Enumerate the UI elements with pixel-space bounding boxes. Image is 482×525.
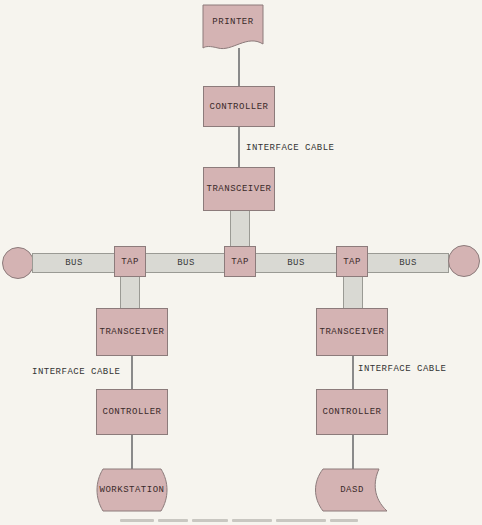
workstation-label: WORKSTATION xyxy=(95,468,169,512)
right-transceiver-box: TRANSCEIVER xyxy=(316,308,388,356)
dasd-label: DASD xyxy=(315,468,389,512)
left-interface-cable xyxy=(131,356,133,390)
top-cable-label: INTERFACE CABLE xyxy=(246,143,335,153)
printer-label: PRINTER xyxy=(202,4,264,40)
left-cable-label: INTERFACE CABLE xyxy=(32,367,121,377)
right-cable-label: INTERFACE CABLE xyxy=(358,364,447,374)
bus-segment-1: BUS xyxy=(32,253,116,273)
right-tap-stub xyxy=(343,275,363,308)
bus-segment-3: BUS xyxy=(255,253,337,273)
tap-center: TAP xyxy=(224,246,256,277)
bus-segment-2: BUS xyxy=(145,253,227,273)
bus-segment-4: BUS xyxy=(367,253,449,273)
top-controller-box: CONTROLLER xyxy=(203,86,275,127)
figure-caption xyxy=(120,512,370,518)
workstation-connector xyxy=(131,435,133,469)
bus-terminator-left xyxy=(2,247,34,279)
printer-connector xyxy=(238,48,240,88)
bus-terminator-right xyxy=(448,245,480,277)
left-controller-box: CONTROLLER xyxy=(96,389,168,435)
tap-left: TAP xyxy=(114,246,146,277)
top-interface-cable xyxy=(238,127,240,169)
right-interface-cable xyxy=(352,356,354,390)
left-tap-stub xyxy=(120,275,140,308)
right-controller-box: CONTROLLER xyxy=(316,389,388,435)
top-tap-stub xyxy=(230,211,250,246)
tap-right: TAP xyxy=(336,246,368,277)
dasd-connector xyxy=(352,435,354,469)
top-transceiver-box: TRANSCEIVER xyxy=(203,167,275,211)
left-transceiver-box: TRANSCEIVER xyxy=(96,308,168,356)
